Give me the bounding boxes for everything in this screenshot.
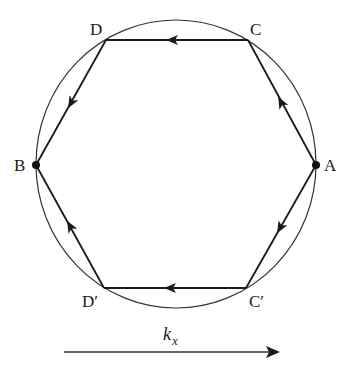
arrow-up-left-icon xyxy=(63,218,78,233)
point-B-dot xyxy=(32,161,40,169)
point-A-dot xyxy=(312,161,320,169)
arrow-down-left-icon xyxy=(64,95,79,110)
label-C: C xyxy=(250,20,261,39)
kx-label-subscript: x xyxy=(171,333,178,348)
label-A: A xyxy=(324,156,337,175)
hexagon-circle-diagram: D C A C′ D′ B kx xyxy=(0,0,360,373)
label-C-prime: C′ xyxy=(249,292,264,311)
kx-axis-label: kx xyxy=(163,324,178,348)
kx-label-k: k xyxy=(163,324,172,344)
hexagon-edges xyxy=(36,40,316,288)
brillouin-circle xyxy=(36,20,316,308)
label-D-prime: D′ xyxy=(82,292,98,311)
label-B: B xyxy=(14,156,25,175)
label-D: D xyxy=(90,20,102,39)
arrow-up-left-icon xyxy=(274,94,289,109)
arrow-down-left-icon xyxy=(273,220,288,235)
edge-arrows xyxy=(63,35,289,293)
